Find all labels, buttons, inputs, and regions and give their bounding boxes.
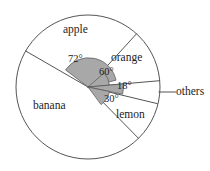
slice-label-apple: apple (63, 24, 88, 36)
angle-label-72: 72° (68, 54, 83, 65)
angle-label-60: 60° (99, 67, 114, 78)
slice-label-others: others (176, 86, 204, 98)
angle-label-30: 30° (104, 94, 119, 105)
slice-label-orange: orange (111, 52, 142, 64)
pie-chart-figure: apple orange banana lemon others 72° 60°… (0, 0, 210, 171)
slice-label-lemon: lemon (116, 109, 145, 121)
slice-label-banana: banana (33, 100, 66, 112)
angle-label-18: 18° (117, 81, 132, 92)
